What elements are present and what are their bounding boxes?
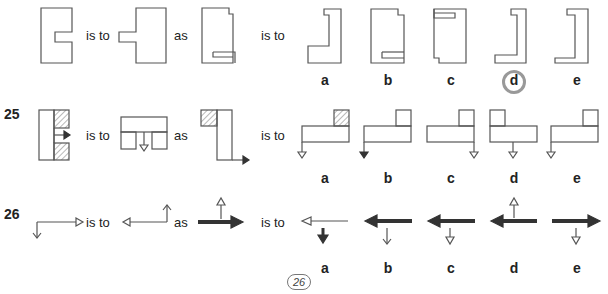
row1-figure2-tabbed-rect	[119, 8, 166, 63]
q26-figure1	[33, 218, 83, 238]
q25-option-b-shape	[360, 110, 411, 158]
option-d-label[interactable]: d	[504, 170, 524, 186]
connector-is-to: is to	[261, 128, 285, 143]
q26-figure2	[123, 205, 171, 226]
option-c-label[interactable]: c	[441, 170, 461, 186]
row1-option-b-shape	[371, 9, 404, 63]
q26-figure3	[198, 198, 243, 228]
q25-option-a-shape	[298, 110, 349, 158]
q26-option-c-shape	[428, 215, 475, 244]
option-b-label[interactable]: b	[378, 72, 398, 88]
q25-option-e-shape	[547, 110, 598, 158]
option-b-label[interactable]: b	[378, 170, 398, 186]
connector-is-to: is to	[86, 215, 110, 230]
question-number-26: 26	[4, 206, 20, 222]
row1-figure1-notched-rect	[41, 8, 72, 63]
row1-option-d-shape	[495, 9, 526, 63]
q25-option-c-shape	[427, 110, 478, 158]
connector-is-to: is to	[86, 128, 110, 143]
q25-figure2	[121, 117, 167, 151]
page-number: 26	[287, 274, 311, 290]
q26-option-a-shape	[302, 217, 348, 243]
row1-option-e-shape	[555, 9, 588, 63]
option-e-label[interactable]: e	[567, 260, 587, 276]
row1-option-a-shape	[308, 9, 341, 63]
q25-option-d-shape	[490, 110, 537, 158]
connector-as: as	[174, 28, 188, 43]
q26-option-b-shape	[365, 215, 412, 244]
question-number-25: 25	[4, 106, 20, 122]
option-e-label[interactable]: e	[567, 72, 587, 88]
connector-is-to: is to	[261, 215, 285, 230]
q25-figure3	[201, 110, 249, 164]
option-e-label[interactable]: e	[567, 170, 587, 186]
row1-figure3-slot-rect	[202, 8, 235, 63]
connector-as: as	[174, 215, 188, 230]
connector-is-to: is to	[86, 28, 110, 43]
option-a-label[interactable]: a	[315, 260, 335, 276]
option-a-label[interactable]: a	[315, 72, 335, 88]
connector-is-to: is to	[261, 28, 285, 43]
worksheet-page: is to as is to a b c d e 25 is to as is …	[0, 0, 608, 294]
figures-canvas	[0, 0, 608, 294]
option-c-label[interactable]: c	[441, 260, 461, 276]
option-d-label[interactable]: d	[504, 72, 524, 88]
q26-option-e-shape	[552, 215, 600, 244]
q26-option-d-shape	[491, 198, 537, 227]
option-c-label[interactable]: c	[441, 72, 461, 88]
option-d-label[interactable]: d	[504, 260, 524, 276]
option-b-label[interactable]: b	[378, 260, 398, 276]
q25-figure1	[39, 110, 70, 160]
connector-as: as	[174, 128, 188, 143]
option-a-label[interactable]: a	[315, 170, 335, 186]
row1-option-c-shape	[434, 9, 466, 63]
